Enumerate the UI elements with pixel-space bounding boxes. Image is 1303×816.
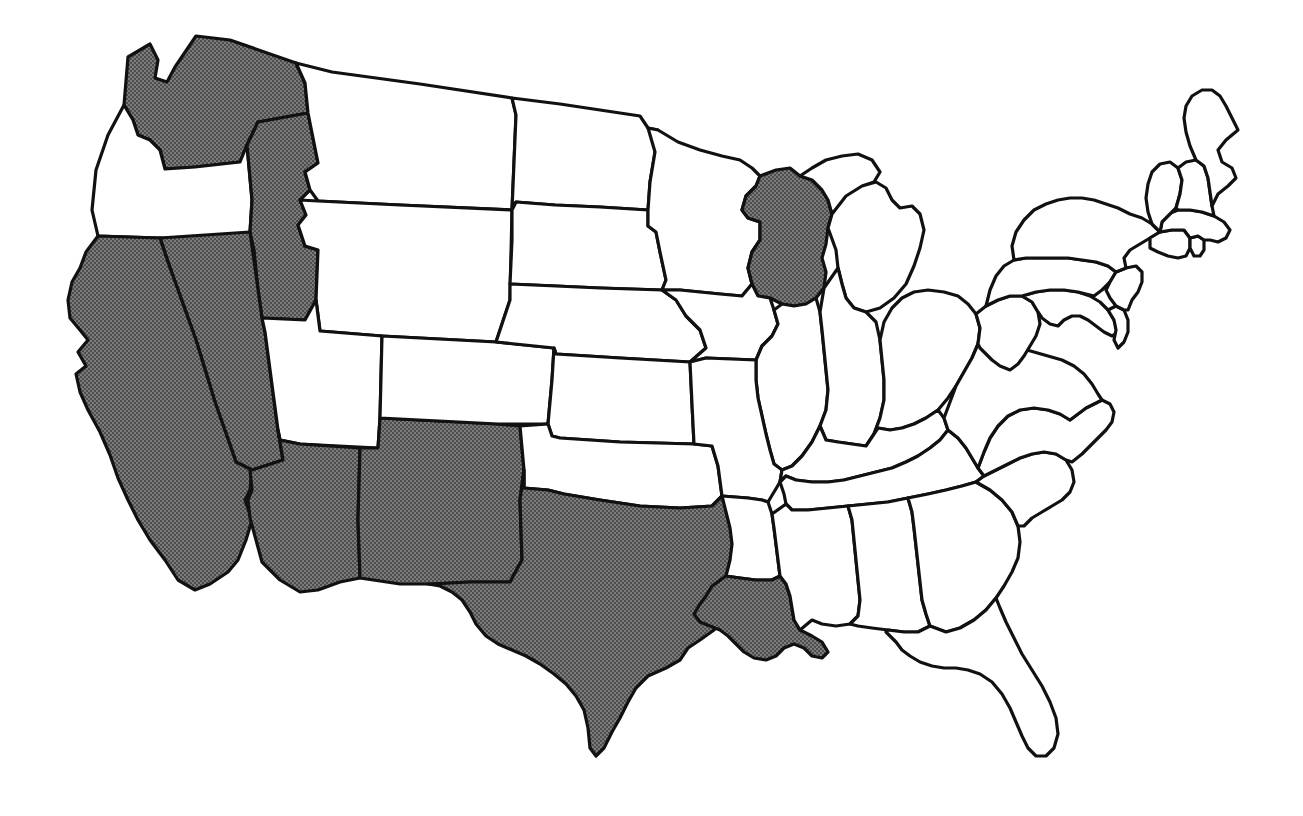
state-colorado[interactable]: Colorado — [380, 336, 554, 424]
state-wyoming[interactable]: Wyoming — [298, 200, 512, 342]
state-south-dakota[interactable]: South Dakota — [510, 202, 666, 290]
state-new-mexico[interactable]: New Mexico — [358, 418, 524, 584]
state-kansas[interactable]: Kansas — [548, 348, 694, 444]
us-map-figure: United States choropleth map Outline map… — [0, 0, 1303, 816]
state-north-dakota[interactable]: North Dakota — [512, 98, 658, 210]
us-map-svg: Washington Oregon Idaho Montana Wyoming … — [0, 0, 1303, 816]
state-arkansas[interactable]: Arkansas — [722, 496, 780, 580]
